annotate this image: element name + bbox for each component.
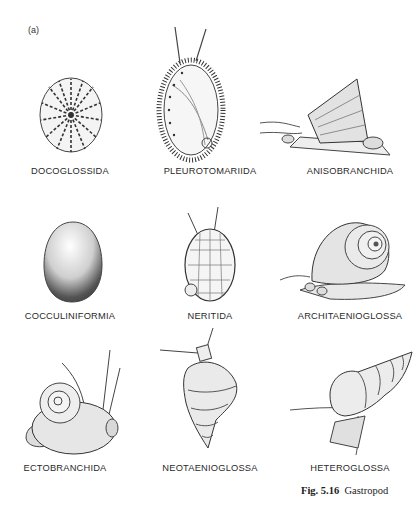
taxon-neritida: NERITIDA xyxy=(140,180,280,330)
high-spired-shell-icon xyxy=(290,350,415,455)
taxon-label: ECTOBRANCHIDA xyxy=(0,463,135,473)
coiled-snail-icon xyxy=(280,215,415,305)
egg-shell-icon xyxy=(42,220,104,304)
taxon-heteroglossa: HETEROGLOSSA xyxy=(280,330,420,505)
taxon-label: DOCOGLOSSIDA xyxy=(0,166,140,176)
taxon-label: ANISOBRANCHIDA xyxy=(280,166,420,176)
taxon-pleurotomariida: PLEUROTOMARIIDA xyxy=(140,0,280,180)
taxon-cocculiniformia: COCCULINIFORMIA xyxy=(0,180,140,330)
taxon-label: COCCULINIFORMIA xyxy=(0,311,140,321)
taxon-anisobranchida: ANISOBRANCHIDA xyxy=(280,0,420,180)
limpet-shell-icon xyxy=(38,75,104,155)
taxon-label: ARCHITAENIOGLOSSA xyxy=(280,311,420,321)
taxon-ectobranchida: ECTOBRANCHIDA xyxy=(0,330,140,505)
turreted-shell-icon xyxy=(158,328,248,453)
taxon-docoglossida: DOCOGLOSSIDA xyxy=(0,0,140,180)
figure-caption: Fig. 5.16 Gastropod xyxy=(301,485,388,496)
taxon-neotaenioglossa: NEOTAENIOGLOSSA xyxy=(140,330,280,505)
taxon-architaenioglossa: ARCHITAENIOGLOSSA xyxy=(280,180,420,330)
conical-shell-icon xyxy=(260,75,410,160)
taxon-label: HETEROGLOSSA xyxy=(280,463,420,473)
caption-text: Gastropod xyxy=(344,485,388,496)
caption-number: Fig. 5.16 xyxy=(301,485,339,496)
neritid-shell-icon xyxy=(180,205,240,305)
taxon-label: NEOTAENIOGLOSSA xyxy=(140,463,280,473)
spiny-shell-icon xyxy=(150,25,232,165)
taxon-label: NERITIDA xyxy=(140,311,280,321)
planispiral-snail-icon xyxy=(22,348,127,458)
taxon-label: PLEUROTOMARIIDA xyxy=(140,166,280,176)
